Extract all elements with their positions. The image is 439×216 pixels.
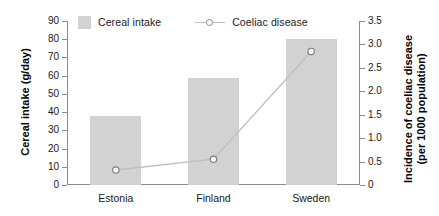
y-axis-right-title-line2: (per 1000 population) bbox=[415, 53, 428, 164]
y-axis-left-tick-label: 50 bbox=[35, 89, 59, 99]
y-axis-right-tick bbox=[360, 44, 365, 45]
y-axis-right-tick-label: 0 bbox=[368, 180, 394, 190]
y-axis-right-tick-label: 3.5 bbox=[368, 16, 394, 26]
y-axis-right-tick bbox=[360, 185, 365, 186]
y-axis-left-tick-label: 80 bbox=[35, 34, 59, 44]
y-axis-right-tick bbox=[360, 162, 365, 163]
y-axis-left-tick-label: 40 bbox=[35, 107, 59, 117]
y-axis-right-tick-label: 1.0 bbox=[368, 133, 394, 143]
x-axis-category-label: Finland bbox=[196, 192, 230, 204]
y-axis-left-tick-label: 0 bbox=[35, 180, 59, 190]
y-axis-right-title: Incidence of coeliac disease (per 1000 p… bbox=[402, 29, 428, 189]
y-axis-right-tick bbox=[360, 91, 365, 92]
y-axis-left-tick-label: 20 bbox=[35, 144, 59, 154]
x-axis-category-label: Sweden bbox=[292, 192, 330, 204]
y-axis-right-tick-label: 2.0 bbox=[368, 86, 394, 96]
data-point-marker bbox=[308, 48, 314, 54]
y-axis-right-tick-label: 0.5 bbox=[368, 157, 394, 167]
y-axis-right-title-line1: Incidence of coeliac disease bbox=[402, 35, 415, 183]
data-point-marker bbox=[210, 156, 216, 162]
line-path bbox=[116, 51, 311, 170]
y-axis-right-tick bbox=[360, 138, 365, 139]
y-axis-right-tick bbox=[360, 21, 365, 22]
plot-area: 9080706050403020100 3.53.02.52.01.51.00.… bbox=[67, 21, 360, 185]
y-axis-left-title: Cereal intake (g/day) bbox=[19, 22, 31, 182]
y-axis-left-tick-label: 60 bbox=[35, 71, 59, 81]
y-axis-left-tick bbox=[62, 185, 67, 186]
x-axis-category-label: Estonia bbox=[98, 192, 133, 204]
line-series-coeliac-disease bbox=[67, 21, 360, 185]
y-axis-left-tick-label: 90 bbox=[35, 16, 59, 26]
chart-container: Cereal intake Coeliac disease Cereal int… bbox=[0, 0, 439, 216]
y-axis-right-tick-label: 3.0 bbox=[368, 39, 394, 49]
y-axis-right-tick bbox=[360, 115, 365, 116]
y-axis-left-tick-label: 30 bbox=[35, 125, 59, 135]
y-axis-left-tick-label: 70 bbox=[35, 52, 59, 62]
y-axis-right-tick-label: 2.5 bbox=[368, 63, 394, 73]
y-axis-right-tick bbox=[360, 68, 365, 69]
data-point-marker bbox=[113, 167, 119, 173]
y-axis-left-tick-label: 10 bbox=[35, 162, 59, 172]
y-axis-right-tick-label: 1.5 bbox=[368, 110, 394, 120]
